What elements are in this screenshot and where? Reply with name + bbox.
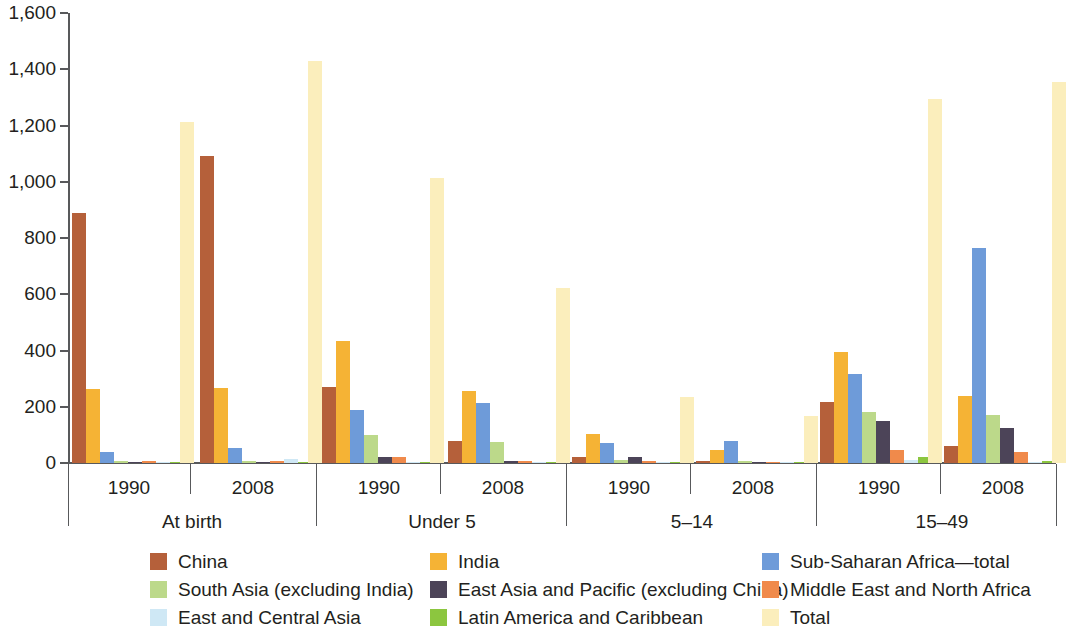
bar xyxy=(430,178,444,463)
bar xyxy=(586,434,600,463)
bar xyxy=(350,410,364,463)
legend-label: South Asia (excluding India) xyxy=(178,579,414,600)
bar-group xyxy=(572,13,696,463)
y-tick-mark xyxy=(60,237,68,239)
bar xyxy=(1014,452,1028,463)
legend-item[interactable]: Latin America and Caribbean xyxy=(430,605,703,629)
y-tick-label: 1,600 xyxy=(8,3,56,22)
bar xyxy=(944,446,958,463)
bar xyxy=(142,461,156,463)
x-axis-group-label: 5–14 xyxy=(647,512,737,531)
bar-group xyxy=(448,13,572,463)
legend-item[interactable]: China xyxy=(150,549,228,573)
bar xyxy=(322,387,336,463)
legend-label: East Asia and Pacific (excluding China) xyxy=(458,579,789,600)
bar xyxy=(710,450,724,463)
bar xyxy=(72,213,86,463)
legend-item[interactable]: Total xyxy=(762,605,830,629)
legend-label: Middle East and North Africa xyxy=(790,579,1031,600)
bar xyxy=(378,457,392,463)
bar xyxy=(1028,462,1042,464)
bar xyxy=(518,461,532,463)
x-axis-year-label: 1990 xyxy=(336,478,422,497)
bar xyxy=(392,457,406,463)
chart-legend: ChinaIndiaSub-Saharan Africa—totalSouth … xyxy=(150,549,1050,632)
bar xyxy=(862,412,876,463)
bar xyxy=(462,391,476,463)
bar xyxy=(958,396,972,464)
legend-swatch-icon xyxy=(762,581,779,598)
x-axis-major-separator xyxy=(1056,464,1057,526)
x-axis-group-label: At birth xyxy=(147,512,237,531)
bar xyxy=(86,389,100,463)
y-tick-label: 800 xyxy=(24,228,56,247)
bar xyxy=(406,462,420,464)
y-tick-mark xyxy=(60,293,68,295)
bar xyxy=(156,462,170,464)
bar-group xyxy=(696,13,820,463)
y-tick-label: 0 xyxy=(45,453,56,472)
bar xyxy=(572,457,586,463)
bar xyxy=(848,374,862,463)
x-axis-year-label: 1990 xyxy=(586,478,672,497)
bar xyxy=(180,122,194,463)
bar xyxy=(614,460,628,463)
bar xyxy=(820,402,834,463)
bar xyxy=(780,462,794,464)
y-tick-mark xyxy=(60,462,68,464)
legend-item[interactable]: Middle East and North Africa xyxy=(762,577,1031,601)
bar xyxy=(270,461,284,463)
legend-label: Latin America and Caribbean xyxy=(458,607,703,628)
y-tick-mark xyxy=(60,125,68,127)
legend-swatch-icon xyxy=(430,581,447,598)
y-tick-mark xyxy=(60,181,68,183)
legend-item[interactable]: India xyxy=(430,549,499,573)
legend-item[interactable]: Sub-Saharan Africa—total xyxy=(762,549,1010,573)
legend-swatch-icon xyxy=(430,553,447,570)
legend-swatch-icon xyxy=(150,609,167,626)
bar xyxy=(972,248,986,463)
bar xyxy=(308,61,322,463)
y-tick-label: 600 xyxy=(24,284,56,303)
bar-group xyxy=(72,13,196,463)
bar xyxy=(490,442,504,463)
bar xyxy=(600,443,614,463)
x-axis-major-separator xyxy=(566,464,567,526)
legend-item[interactable]: East and Central Asia xyxy=(150,605,361,629)
legend-label: Total xyxy=(790,607,830,628)
bar xyxy=(114,461,128,463)
bar xyxy=(242,461,256,463)
y-tick-label: 400 xyxy=(24,341,56,360)
legend-label: East and Central Asia xyxy=(178,607,361,628)
bar xyxy=(364,435,378,463)
bar xyxy=(214,388,228,463)
legend-swatch-icon xyxy=(762,609,779,626)
bar xyxy=(228,448,242,463)
bar-group xyxy=(944,13,1068,463)
plot-area xyxy=(68,13,1056,463)
y-tick-label: 1,000 xyxy=(8,172,56,191)
x-axis-major-separator xyxy=(816,464,817,526)
bar xyxy=(476,403,490,463)
bar-group xyxy=(322,13,446,463)
bar xyxy=(986,415,1000,463)
y-tick-mark xyxy=(60,12,68,14)
bar xyxy=(1052,82,1066,463)
legend-swatch-icon xyxy=(150,553,167,570)
x-axis-year-label: 2008 xyxy=(460,478,546,497)
x-axis-year-label: 1990 xyxy=(86,478,172,497)
x-axis-year-label: 2008 xyxy=(210,478,296,497)
y-tick-mark xyxy=(60,406,68,408)
y-tick-mark xyxy=(60,68,68,70)
bar xyxy=(738,461,752,463)
x-axis-group-label: Under 5 xyxy=(397,512,487,531)
bar xyxy=(556,288,570,464)
y-tick-label: 1,200 xyxy=(8,116,56,135)
legend-swatch-icon xyxy=(150,581,167,598)
x-axis-year-label: 2008 xyxy=(960,478,1046,497)
x-axis-year-label: 2008 xyxy=(710,478,796,497)
legend-item[interactable]: South Asia (excluding India) xyxy=(150,577,414,601)
legend-item[interactable]: East Asia and Pacific (excluding China) xyxy=(430,577,789,601)
bar xyxy=(752,462,766,464)
